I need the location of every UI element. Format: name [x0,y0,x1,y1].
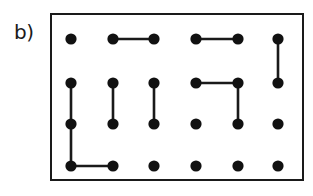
lattice-site [272,33,283,44]
lattice-site [190,33,201,44]
lattice-site [65,160,76,171]
lattice-site [148,77,159,88]
lattice-site [65,77,76,88]
lattice-site [107,118,118,129]
lattice-site [148,33,159,44]
figure-panel: b) [0,0,313,196]
lattice-site [232,160,243,171]
lattice-site [272,118,283,129]
lattice-site [107,77,118,88]
lattice-site [65,118,76,129]
lattice-site [272,77,283,88]
lattice-site [190,160,201,171]
lattice-site [65,33,76,44]
lattice-site [232,33,243,44]
lattice-diagram [0,0,313,196]
lattice-site [272,160,283,171]
frame-border [51,14,303,180]
lattice-site [232,77,243,88]
lattice-site [107,160,118,171]
lattice-site [148,118,159,129]
lattice-site [190,118,201,129]
lattice-site [107,33,118,44]
lattice-site [190,77,201,88]
lattice-site [148,160,159,171]
lattice-site [232,118,243,129]
